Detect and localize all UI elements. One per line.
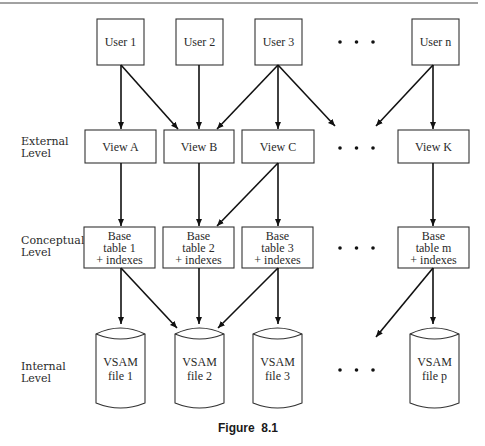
svg-text:VSAM: VSAM [182,355,217,369]
arrows-users-to-views [121,65,433,129]
svg-text:View C: View C [260,140,296,154]
view-box-c: View C [242,130,314,163]
user-box-1: User 1 [97,19,144,65]
svg-text:View K: View K [415,140,452,154]
view-box-a: View A [85,130,156,163]
file-ellipsis [338,368,375,372]
view-ellipsis [338,146,375,150]
svg-text:file 2: file 2 [187,369,212,383]
svg-text:View A: View A [102,140,139,154]
svg-text:+ indexes: + indexes [410,253,457,267]
base-table-box-3: Base table 3 + indexes [242,227,313,268]
user-box-3: User 3 [255,19,302,65]
svg-text:View B: View B [181,140,217,154]
svg-text:Level: Level [21,372,52,385]
base-table-box-2: Base table 2 + indexes [163,227,234,268]
arrows-base-tables-to-files [121,268,433,337]
vsam-file-cylinder-3: VSAM file 3 [253,328,302,408]
user-box-n: User n [412,19,459,65]
level-label-external: External Level [21,135,69,160]
svg-text:Level: Level [21,246,52,259]
svg-text:file 3: file 3 [265,369,290,383]
svg-text:Level: Level [21,147,52,160]
three-level-architecture-diagram: External Level Conceptual Level Internal… [0,0,485,446]
level-label-conceptual: Conceptual Level [21,234,85,259]
svg-text:+ indexes: + indexes [96,253,143,267]
svg-text:file 1: file 1 [108,369,133,383]
view-box-k: View K [398,130,469,163]
figure-caption: Figure 8.1 [218,421,278,435]
svg-text:User n: User n [420,35,452,49]
svg-text:User 3: User 3 [263,35,295,49]
base-table-box-m: Base table m + indexes [398,227,469,268]
svg-text:User 1: User 1 [105,35,137,49]
base-table-ellipsis [338,246,375,250]
vsam-file-cylinder-1: VSAM file 1 [96,328,145,408]
svg-text:VSAM: VSAM [260,355,295,369]
level-label-internal: Internal Level [21,360,66,385]
svg-text:+ indexes: + indexes [254,253,301,267]
vsam-file-cylinder-2: VSAM file 2 [175,328,224,408]
svg-text:+ indexes: + indexes [175,253,222,267]
svg-text:VSAM: VSAM [417,355,452,369]
svg-text:User 2: User 2 [184,35,216,49]
arrows-views-to-base-tables [121,163,433,226]
user-ellipsis [338,40,375,44]
base-table-box-1: Base table 1 + indexes [84,227,155,268]
view-box-b: View B [164,130,234,163]
svg-text:VSAM: VSAM [103,355,138,369]
vsam-file-cylinder-p: VSAM file p [410,328,459,408]
user-box-2: User 2 [176,19,223,65]
svg-text:file p: file p [422,369,447,383]
